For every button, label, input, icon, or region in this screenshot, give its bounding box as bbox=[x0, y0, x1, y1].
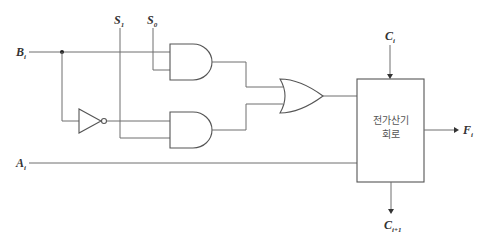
arrow-down-icon bbox=[388, 209, 394, 214]
arrow-right-icon bbox=[454, 127, 459, 133]
arrow-down-icon bbox=[387, 74, 393, 79]
label-a: Ai bbox=[15, 156, 26, 172]
wire-s0 bbox=[153, 28, 170, 70]
adder-label-line1: 전가산기 bbox=[373, 115, 409, 126]
wire-and-top-to-or bbox=[212, 62, 283, 87]
adder-label-line2: 회로 bbox=[382, 129, 400, 140]
label-c-in: Ci bbox=[385, 29, 395, 45]
inverter-bubble bbox=[102, 119, 107, 124]
label-c-out: Ci+1 bbox=[384, 218, 401, 234]
and-gate-bottom-icon bbox=[170, 112, 212, 148]
and-gate-top-icon bbox=[170, 44, 212, 80]
or-gate-icon bbox=[280, 79, 323, 113]
label-b: Bi bbox=[15, 45, 26, 61]
label-s0: S0 bbox=[147, 13, 158, 29]
label-s1: S1 bbox=[114, 13, 124, 29]
circuit-diagram: Bi S1 S0 Ai 전가산기 회로 Ci Fi Ci+1 bbox=[0, 0, 482, 241]
wire-and-bottom-to-or bbox=[212, 104, 283, 130]
label-f: Fi bbox=[462, 123, 473, 139]
not-gate-icon bbox=[79, 109, 101, 133]
wire-b-to-inverter bbox=[62, 52, 79, 121]
